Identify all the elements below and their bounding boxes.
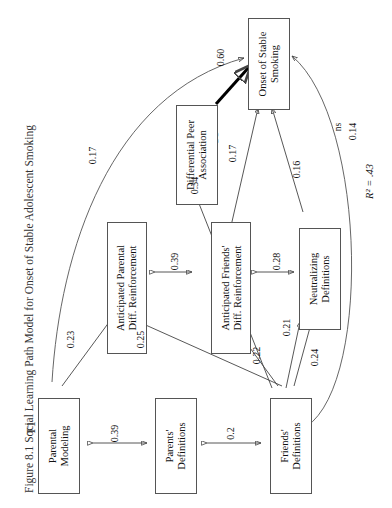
coef-0-39-b: 0.39 [169,253,180,271]
coef-0-34: 0.34 [189,177,200,195]
node-label: Anticipated ParentalDiff. Reinforcement [115,245,139,331]
coef-0-25: 0.25 [135,331,146,349]
node-parents-definitions[interactable]: Parents'Definitions [155,398,197,494]
coef-0-16: 0.16 [291,161,302,179]
coef-0-24: 0.24 [309,349,320,367]
node-anticipated-friends[interactable]: Anticipated Friends'Diff. Reinforcement [211,222,251,354]
node-label: Onset of StableSmoking [257,32,281,97]
coef-0-17-a: 0.17 [227,145,238,163]
node-label: NeutralizingDefinitions [308,253,332,305]
coef-0-23: 0.23 [65,331,76,349]
node-parental-modeling[interactable]: ParentalModeling [38,398,80,494]
coef-0-22: 0.22 [251,347,262,365]
node-onset-stable-smoking[interactable]: Onset of StableSmoking [248,18,290,110]
coef-0-17-b: 0.17 [87,147,98,165]
coef-0-60: 0.60 [215,49,226,67]
coef-0-14: 0.14 [347,123,358,141]
coef-ns-label: ns [333,123,343,131]
node-neutralizing-definitions[interactable]: NeutralizingDefinitions [299,228,341,330]
r-squared-label: R² = .43 [364,164,375,199]
node-friends-definitions[interactable]: Friends'Definitions [270,398,312,494]
node-label: Anticipated Friends'Diff. Reinforcement [219,246,243,331]
figure-canvas: Figure 8.1 Social Learning Path Model fo… [0,0,392,508]
coef-0-21: 0.21 [281,319,292,337]
coef-0-2: 0.2 [225,427,236,440]
node-label: Friends'Definitions [279,422,303,469]
coef-0-28: 0.28 [271,253,282,271]
node-label: Parents'Definitions [164,422,188,469]
node-label: ParentalModeling [47,426,71,467]
coef-0-39-a: 0.39 [109,425,120,443]
